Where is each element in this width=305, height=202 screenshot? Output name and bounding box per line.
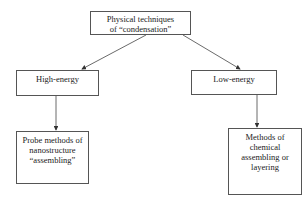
node-probe-line-3: “assembling” [17,155,88,165]
arrow-root-to-low [183,35,240,69]
node-root: Physical techniques of “condensation” [90,11,191,35]
node-probe-line-1: Probe methods of [17,135,88,145]
node-chemical-line-3: assembling or [229,152,301,162]
arrow-root-to-high [82,35,146,69]
node-chemical-methods: Methods of chemical assembling or layeri… [228,128,302,195]
node-chemical-line-2: chemical [229,142,301,152]
node-low-energy-label: Low-energy [192,74,276,84]
node-chemical-line-4: layering [229,162,301,172]
node-probe-line-2: nanostructure [17,145,88,155]
node-chemical-line-1: Methods of [229,132,301,142]
node-root-line-2: of “condensation” [91,24,190,34]
node-probe-methods: Probe methods of nanostructure “assembli… [16,131,89,184]
node-low-energy: Low-energy [191,70,277,95]
node-root-line-1: Physical techniques [91,14,190,24]
node-high-energy-label: High-energy [17,74,98,84]
node-high-energy: High-energy [16,70,99,96]
